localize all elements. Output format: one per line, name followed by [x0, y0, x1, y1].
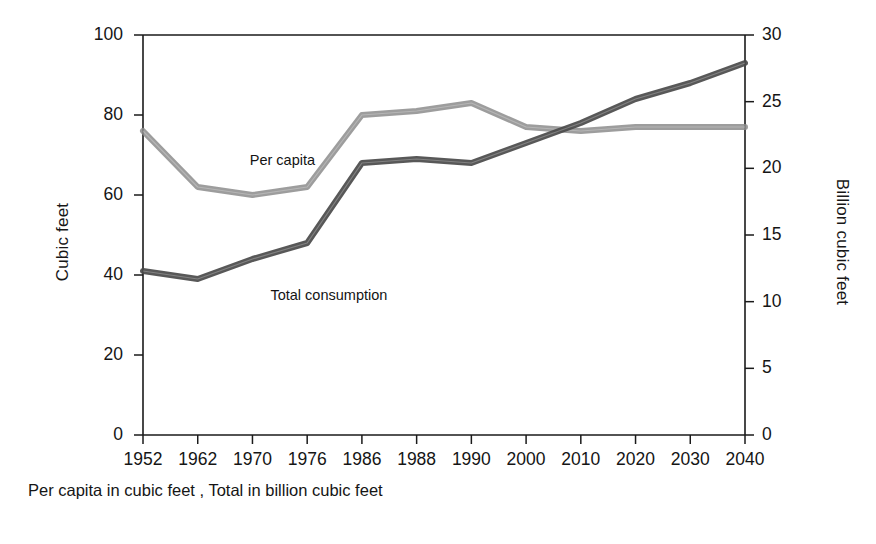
- x-axis-tick-label: 2020: [608, 449, 664, 470]
- chart-figure: Cubic feet Billion cubic feet 0204060801…: [0, 0, 876, 544]
- x-axis-tick-label: 2040: [717, 449, 773, 470]
- x-axis-tick-label: 1986: [334, 449, 390, 470]
- series-line-per-capita: [143, 103, 745, 195]
- data-series-group: [143, 63, 745, 279]
- series-label-total-consumption: Total consumption: [270, 287, 387, 303]
- y-axis-right-ticks: [745, 35, 754, 435]
- series-line-total-consumption: [143, 63, 745, 279]
- y-axis-left-tick-label: 60: [63, 184, 123, 205]
- y-axis-right-tick-label: 15: [762, 224, 822, 245]
- y-axis-right-tick-label: 20: [762, 157, 822, 178]
- y-axis-right-tick-label: 0: [762, 424, 822, 445]
- chart-caption: Per capita in cubic feet , Total in bill…: [28, 481, 383, 500]
- x-axis-tick-label: 2030: [662, 449, 718, 470]
- x-axis-tick-label: 1990: [443, 449, 499, 470]
- series-label-per-capita: Per capita: [250, 152, 315, 168]
- x-axis-tick-label: 2000: [498, 449, 554, 470]
- x-axis-tick-label: 1962: [170, 449, 226, 470]
- series-line-highlight: [143, 103, 745, 195]
- y-axis-right-tick-label: 30: [762, 24, 822, 45]
- x-axis-tick-label: 1988: [389, 449, 445, 470]
- x-axis-ticks: [143, 435, 745, 444]
- y-axis-right-tick-label: 5: [762, 357, 822, 378]
- x-axis-tick-label: 1976: [279, 449, 335, 470]
- y-axis-right-tick-label: 10: [762, 291, 822, 312]
- x-axis-tick-label: 1952: [115, 449, 171, 470]
- y-axis-left-tick-label: 20: [63, 344, 123, 365]
- x-axis-tick-label: 2010: [553, 449, 609, 470]
- y-axis-left-tick-label: 80: [63, 104, 123, 125]
- x-axis-tick-label: 1970: [224, 449, 280, 470]
- y-axis-left-tick-label: 0: [63, 424, 123, 445]
- y-axis-right-tick-label: 25: [762, 91, 822, 112]
- y-axis-left-tick-label: 40: [63, 264, 123, 285]
- y-axis-left-tick-label: 100: [63, 24, 123, 45]
- y-axis-left-ticks: [134, 35, 143, 435]
